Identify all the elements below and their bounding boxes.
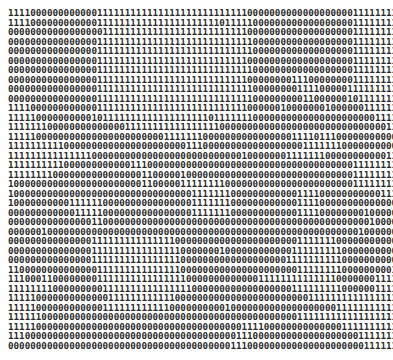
binary-bitmap-grid: 1111000000000000111111111111111111111111… bbox=[8, 8, 393, 350]
bitmap-row: 0000000000000000000000000000000000000000… bbox=[8, 341, 393, 351]
